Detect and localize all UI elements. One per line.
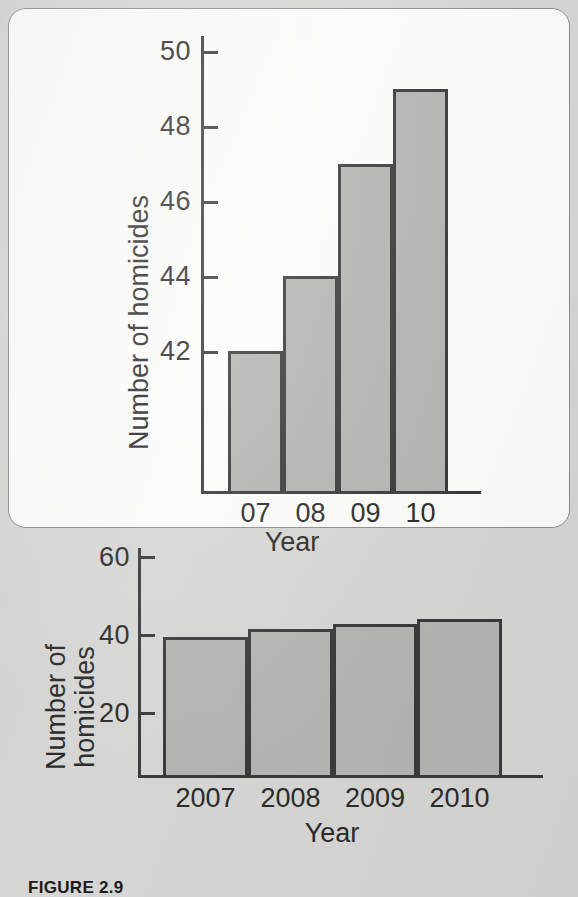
x-tick-label-2009: 2009 [333,783,417,814]
y-axis-line-full [138,548,141,777]
y-tick-60 [141,556,155,559]
y-tick-label-60: 60 [85,542,130,573]
bar-2009 [333,624,417,778]
x-tick-label-2010: 2010 [417,783,502,814]
y-tick-20 [141,712,155,715]
bar-2010 [417,619,502,778]
full-axis-chart: 60 40 20 2007 2008 2009 2010 Year Number… [0,0,578,897]
x-tick-label-2008: 2008 [248,783,333,814]
bar-2008 [248,629,333,778]
x-axis-title-full: Year [272,818,392,849]
y-axis-title-full: Number of homicides [42,644,100,770]
bar-2007 [163,637,248,778]
y-tick-40 [141,634,155,637]
figure-caption: FIGURE 2.9 [28,878,124,897]
x-tick-label-2007: 2007 [163,783,248,814]
